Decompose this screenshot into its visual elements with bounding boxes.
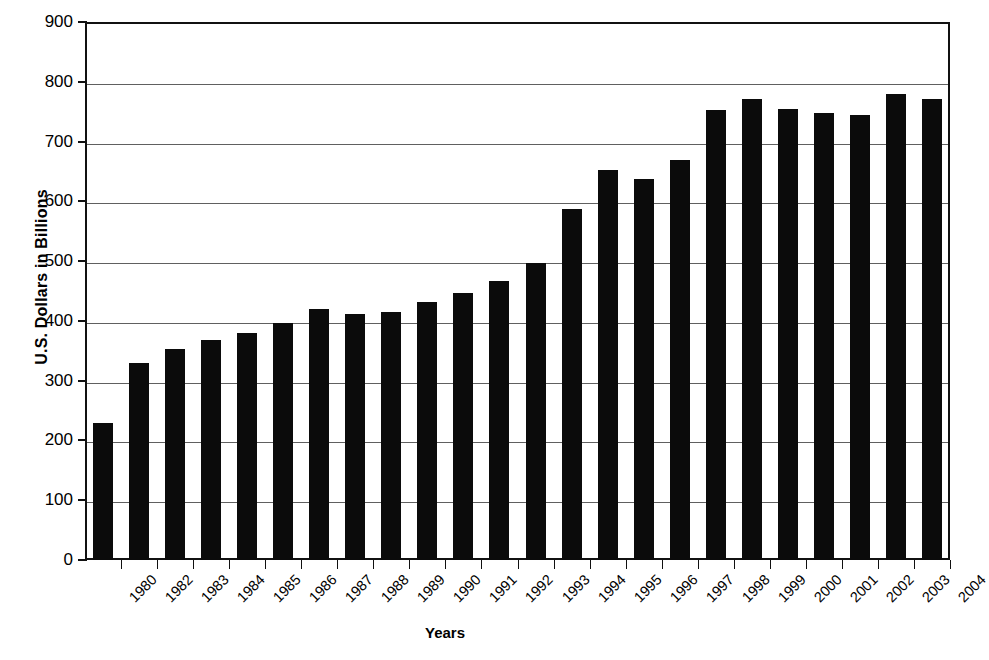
x-tick-label-1993: 1993 [559,572,592,605]
x-tick-label-1989: 1989 [415,572,448,605]
x-tick-mark-1989 [409,560,410,569]
bar-1986 [273,323,293,560]
y-tick-label-600: 600 [13,192,73,209]
y-tick-label-700: 700 [13,133,73,150]
x-tick-label-1994: 1994 [595,572,628,605]
bar-2002 [850,115,870,560]
bar-1996 [634,179,654,560]
y-axis-title: U.S. Dollars in Billions [33,147,51,407]
x-tick-mark-2000 [806,560,807,569]
y-tick-label-0: 0 [13,551,73,568]
bar-1998 [706,110,726,560]
bar-2000 [778,109,798,560]
bar-1983 [165,349,185,560]
y-tick-label-100: 100 [13,491,73,508]
x-axis-title: Years [380,624,510,641]
bar-1995 [598,170,618,560]
x-tick-mark-2001 [842,560,843,569]
bar-1997 [670,160,690,561]
x-tick-mark-1986 [301,560,302,569]
bar-2003 [886,94,906,560]
bar-1985 [237,333,257,560]
bar-1999 [742,99,762,560]
x-tick-mark-1993 [554,560,555,569]
x-tick-mark-1982 [157,560,158,569]
x-tick-mark-1985 [265,560,266,569]
x-tick-mark-1984 [229,560,230,569]
bar-1989 [381,312,401,560]
x-tick-label-2001: 2001 [847,572,880,605]
x-tick-label-1991: 1991 [487,572,520,605]
x-tick-mark-2002 [878,560,879,569]
bar-1994 [562,209,582,560]
y-tick-label-200: 200 [13,431,73,448]
x-tick-mark-1995 [626,560,627,569]
x-tick-mark-1998 [734,560,735,569]
bar-1988 [345,314,365,560]
x-tick-mark-1991 [481,560,482,569]
x-tick-label-1985: 1985 [271,572,304,605]
bar-1990 [417,302,437,560]
bar-1992 [489,281,509,560]
x-tick-mark-1999 [770,560,771,569]
x-tick-mark-2004 [950,560,951,569]
x-tick-label-1988: 1988 [379,572,412,605]
x-tick-label-2004: 2004 [955,572,988,605]
x-tick-label-1996: 1996 [667,572,700,605]
x-tick-label-1987: 1987 [343,572,376,605]
x-tick-label-1998: 1998 [739,572,772,605]
bars-layer [85,22,950,560]
x-tick-mark-1983 [193,560,194,569]
x-tick-label-2002: 2002 [883,572,916,605]
x-tick-label-1995: 1995 [631,572,664,605]
x-tick-mark-2003 [914,560,915,569]
bar-1980 [93,423,113,560]
x-tick-label-1984: 1984 [235,572,268,605]
bar-1984 [201,340,221,560]
y-tick-label-400: 400 [13,312,73,329]
x-tick-label-1999: 1999 [775,572,808,605]
x-tick-label-1986: 1986 [307,572,340,605]
x-tick-label-1982: 1982 [163,572,196,605]
bar-1993 [526,263,546,560]
x-tick-mark-1997 [698,560,699,569]
x-tick-label-2003: 2003 [919,572,952,605]
y-tick-label-300: 300 [13,372,73,389]
bar-2001 [814,113,834,560]
x-tick-label-1992: 1992 [523,572,556,605]
x-tick-mark-1990 [445,560,446,569]
y-tick-label-800: 800 [13,73,73,90]
bar-1982 [129,363,149,560]
x-tick-mark-1992 [518,560,519,569]
bar-2004 [922,99,942,560]
x-tick-mark-1994 [590,560,591,569]
y-tick-label-500: 500 [13,252,73,269]
x-tick-label-1990: 1990 [451,572,484,605]
bar-1991 [453,293,473,560]
x-tick-label-1980: 1980 [126,572,159,605]
x-tick-label-1983: 1983 [199,572,232,605]
x-tick-mark-1980 [121,560,122,569]
x-tick-mark-1987 [337,560,338,569]
x-tick-mark-1988 [373,560,374,569]
x-tick-label-2000: 2000 [811,572,844,605]
y-tick-label-900: 900 [13,13,73,30]
x-tick-label-1997: 1997 [703,572,736,605]
x-tick-mark-1996 [662,560,663,569]
bar-1987 [309,309,329,560]
